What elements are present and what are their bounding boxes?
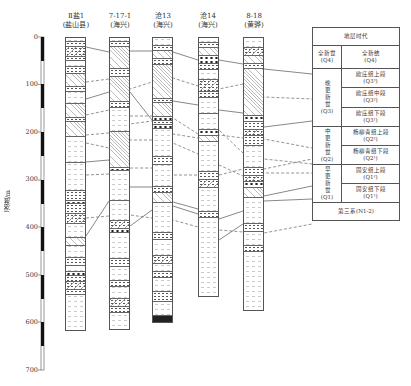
layer [153,292,172,302]
layer [66,214,85,224]
unit-name: 杨柳青组上段 [342,129,399,136]
layer [244,48,263,56]
unit-name: 全新统 [342,50,399,57]
layer [110,221,129,229]
era-name: 中更新世 [324,128,331,156]
layer [199,56,218,64]
layer [199,172,218,180]
layer [66,295,85,331]
era-name: 早更新世 [324,166,331,194]
layer [153,129,172,157]
layer [244,38,263,48]
layer [153,240,172,256]
unit-cell: 杨柳青组上段 (Q2²) [342,127,399,145]
layer [244,252,263,311]
layer [66,122,85,137]
layer [199,142,218,172]
unit-code: (Q1¹) [342,193,399,200]
unit-code: (Q4) [342,57,399,64]
unit-code: (Q3¹) [342,117,399,124]
unit-code: (Q2¹) [342,155,399,162]
unit-cell: 全新统 (Q4) [342,46,399,68]
units-cell: 全新统 (Q4) [342,46,399,68]
layer [244,188,263,198]
era-code: (Q3) [321,108,333,115]
layer [244,122,263,130]
layer [110,313,129,330]
era-cell: 晚更新世 (Q3) [313,69,342,126]
layer [66,246,85,258]
layer [110,69,129,77]
unit-cell: 欧庄组上段 (Q3³) [342,69,399,87]
era-code: (Q4) [321,57,333,64]
units-cell: 杨柳青组上段 (Q2²) 杨柳青组下段 (Q2¹) [342,127,399,164]
layer [110,299,129,307]
layer [199,48,218,56]
layer [110,108,129,132]
unit-cell: 固安组上段 (Q1²) [342,165,399,183]
layer [153,38,172,46]
unit-name: 欧庄组中段 [342,90,399,97]
era-cell: 全新世 (Q4) [313,46,342,68]
layer [66,224,85,238]
era-code: (Q2) [321,156,333,163]
layer [244,232,263,246]
layer [153,65,172,99]
layer [244,168,263,176]
layer [66,163,85,191]
units-cell: 固安组上段 (Q1²) 固安组下段 (Q1¹) [342,165,399,202]
borehole-column-3 [152,37,173,323]
era-row-late-pleistocene: 晚更新世 (Q3) 欧庄组上段 (Q3³) 欧庄组中段 (Q3²) 欧庄组下段 … [313,68,399,126]
layer [153,203,172,233]
layer [153,256,172,264]
layer [153,264,172,272]
layer [244,136,263,146]
layer [66,74,85,87]
unit-cell: 杨柳青组下段 (Q2¹) [342,145,399,164]
layer [66,258,85,266]
layer [153,193,172,203]
layer [199,180,218,188]
layer [199,98,218,114]
layer [110,47,129,69]
layer [199,80,218,92]
borehole-column-2 [109,37,130,330]
layer [244,146,263,168]
layer [244,56,263,64]
unit-name: 固安组下段 [342,186,399,193]
era-row-middle-pleistocene: 中更新世 (Q2) 杨柳青组上段 (Q2²) 杨柳青组下段 (Q2¹) [313,126,399,164]
era-name: 晚更新世 [324,80,331,108]
layer [199,218,218,297]
layer [66,137,85,163]
unit-cell: 欧庄组中段 (Q3²) [342,87,399,106]
layer [153,51,172,59]
unit-name: 欧庄组下段 [342,110,399,117]
unit-cell: 固安组下段 (Q1¹) [342,183,399,202]
unit-cell: 欧庄组下段 (Q3¹) [342,107,399,126]
borehole-column-4 [198,37,219,297]
era-cell: 早更新世 (Q1) [313,165,342,202]
unit-name: 固安组上段 [342,167,399,174]
layer [153,316,172,323]
table-header: 地层时代 [313,28,399,45]
unit-code: (Q2²) [342,136,399,143]
layer [199,188,218,212]
layer [66,104,85,118]
layer [110,201,129,221]
units-cell: 欧庄组上段 (Q3³) 欧庄组中段 (Q3²) 欧庄组下段 (Q3¹) [342,69,399,126]
layer [199,70,218,80]
layer [66,238,85,246]
unit-code: (Q3²) [342,97,399,104]
layer [153,302,172,316]
era-code: (Q1) [321,194,333,201]
era-row-holocene: 全新世 (Q4) 全新统 (Q4) [313,45,399,68]
era-name: 全新世 [318,50,336,57]
era-row-early-pleistocene: 早更新世 (Q1) 固安组上段 (Q1²) 固安组下段 (Q1¹) [313,164,399,202]
layer [244,69,263,116]
layer [153,233,172,240]
layer [153,103,172,117]
layer [66,47,85,57]
layer [110,132,129,168]
layer [66,92,85,104]
layer [153,278,172,292]
